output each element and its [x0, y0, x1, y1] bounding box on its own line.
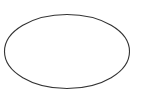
drawing-canvas	[0, 0, 144, 100]
ellipse-svg	[0, 0, 144, 100]
